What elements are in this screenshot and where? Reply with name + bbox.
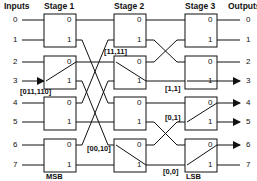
- s3-sw1-port0: 0: [208, 57, 212, 66]
- s1-sw1-port0: 0: [67, 57, 71, 66]
- input-label-7: 7: [13, 160, 17, 169]
- s1-sw0-port1: 1: [67, 35, 71, 44]
- s2-sw1-port0: 0: [137, 57, 141, 66]
- stage1-header: Stage 1: [44, 2, 74, 11]
- output-label-0: 0: [246, 15, 250, 24]
- s3-sw3-port1: 1: [208, 160, 212, 169]
- s2-sw0-port1: 1: [137, 35, 141, 44]
- input-label-1: 1: [13, 35, 17, 44]
- s1-sw0-port0: 0: [67, 15, 71, 24]
- inputs-header: Inputs: [4, 2, 30, 11]
- input-label-2: 2: [13, 57, 17, 66]
- msb-label: MSB: [46, 172, 63, 181]
- output-label-5: 5: [246, 117, 250, 126]
- s2-sw1-port1: 1: [137, 76, 141, 85]
- stage2-header: Stage 2: [114, 2, 144, 11]
- s3-sw0-port1: 1: [208, 35, 212, 44]
- stage3-header: Stage 3: [185, 2, 215, 11]
- input-label-0: 0: [13, 15, 17, 24]
- s1-sw2-port1: 1: [67, 117, 71, 126]
- s2-sw3-port1: 1: [137, 160, 141, 169]
- s2-sw0-port0: 0: [137, 15, 141, 24]
- s2-sw2-port1: 1: [137, 117, 141, 126]
- routing-tag-stage3-b: [0,1]: [165, 113, 180, 122]
- s1-sw3-port0: 0: [67, 140, 71, 149]
- lsb-label: LSB: [186, 172, 201, 181]
- s1-sw3-port1: 1: [67, 160, 71, 169]
- s1-sw2-port0: 0: [67, 98, 71, 107]
- s1-sw1-port1: 1: [67, 76, 71, 85]
- routing-tag-stage2-a: [11,11]: [104, 47, 127, 56]
- output-label-2: 2: [246, 57, 250, 66]
- input-label-5: 5: [13, 117, 17, 126]
- output-label-1: 1: [246, 35, 250, 44]
- omega-network-diagram: Inputs Stage 1 Stage 2 Stage 3 Outputs 0…: [0, 0, 257, 181]
- input-label-6: 6: [13, 140, 17, 149]
- s3-sw1-port1: 1: [208, 76, 212, 85]
- routing-tag-stage3-c: [0,0]: [163, 167, 178, 176]
- routing-tag-input: [011,110]: [20, 87, 51, 96]
- s2-sw3-port0: 0: [137, 140, 141, 149]
- s3-sw0-port0: 0: [208, 15, 212, 24]
- output-label-6: 6: [246, 140, 250, 149]
- s3-sw3-port0: 0: [208, 140, 212, 149]
- input-label-3: 3: [13, 76, 17, 85]
- s3-sw2-port1: 1: [208, 117, 212, 126]
- output-label-3: 3: [246, 76, 250, 85]
- outputs-header: Outputs: [228, 2, 257, 11]
- input-label-4: 4: [13, 98, 17, 107]
- routing-tag-stage3-a: [1,1]: [165, 84, 180, 93]
- s3-sw2-port0: 0: [208, 98, 212, 107]
- output-label-7: 7: [246, 160, 250, 169]
- output-label-4: 4: [246, 98, 250, 107]
- s2-sw2-port0: 0: [137, 98, 141, 107]
- routing-tag-stage2-b: [00,10]: [87, 144, 111, 153]
